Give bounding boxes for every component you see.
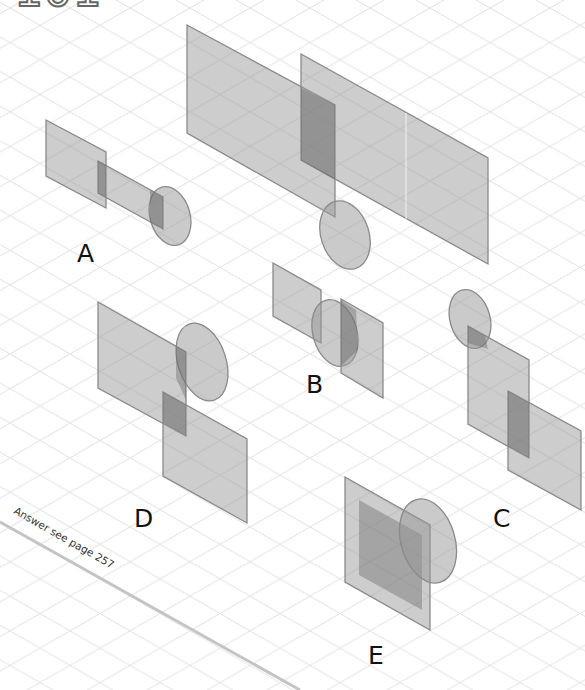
a-overlap-1 [98,161,106,197]
option-e-label: E [368,641,384,670]
option-c-label: C [493,504,510,533]
option-d-label: D [134,504,153,533]
option-a-label: A [77,239,94,268]
puzzle-page: 101 A B C D [0,0,585,690]
option-b-label: B [306,370,323,399]
puzzle-number: 101 [14,0,102,17]
